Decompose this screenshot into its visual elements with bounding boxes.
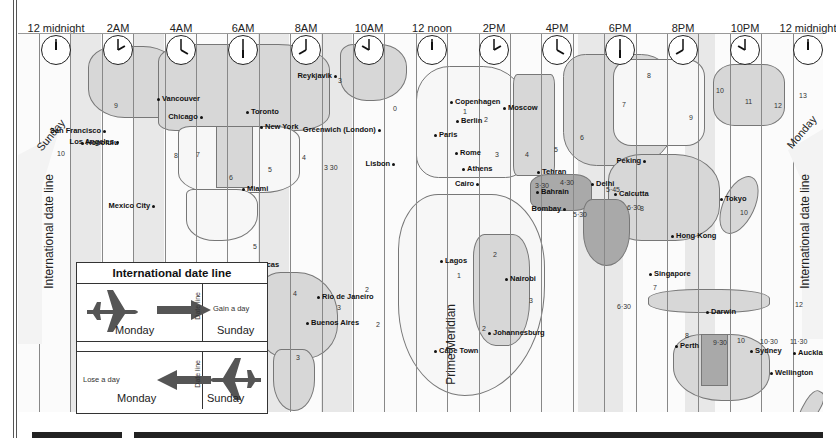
zone-offset-label: 4·30 (560, 179, 574, 186)
city-label: Buenos Aires (306, 318, 359, 327)
clock-icon (417, 35, 447, 65)
city-label: Delhi (591, 179, 614, 188)
zone-offset-label: 6·30 (617, 303, 631, 310)
zone-offset-label: 9 (114, 102, 118, 109)
zone-offset-label: 10·30 (760, 338, 778, 345)
zone-offset-label: 9·30 (713, 339, 727, 346)
city-label: Johannesburg (488, 328, 545, 337)
city-label: Moscow (503, 103, 538, 112)
city-label: Miami (242, 184, 268, 193)
zone-offset-label: 2 (484, 116, 488, 123)
city-label: Bahrain (536, 187, 569, 196)
zone-offset-label: 7 (622, 101, 626, 108)
prime-meridian-label: Prime Meridian (444, 304, 458, 385)
city-label: Copenhagen (450, 97, 500, 106)
zone-offset-label: 3 (338, 77, 342, 84)
city-label: Lagos (440, 256, 467, 265)
zone-offset-label: 11·30 (790, 338, 807, 345)
time-zone-boundary (667, 34, 668, 412)
city-label: Wellington (770, 368, 813, 377)
clock-icon (605, 35, 635, 65)
legend-lose-row: Lose a day Monday Sunday Date line (77, 352, 267, 409)
clock-icon (730, 35, 760, 65)
zone-offset-label: 6 (229, 174, 233, 181)
land-new-zealand (795, 387, 823, 412)
city-label: Nairobi (505, 274, 536, 283)
time-zone-boundary (353, 34, 354, 412)
city-label: Athens (462, 164, 492, 173)
zone-offset-label: 5·30 (573, 211, 587, 218)
time-zone-boundary (70, 34, 71, 412)
city-label: Tokyo (720, 194, 747, 203)
land-siberia (613, 59, 705, 146)
city-label: New York (260, 122, 299, 131)
clock-icon (41, 35, 71, 65)
time-zone-boundary (510, 34, 511, 412)
city-label: Rome (455, 148, 481, 157)
zone-offset-label: 4 (293, 290, 297, 297)
time-zone-boundary (322, 34, 323, 412)
lose-a-day-label: Lose a day (83, 375, 120, 384)
legend-monday: Monday (115, 324, 154, 336)
zone-offset-label: 6 (580, 134, 584, 141)
time-zone-boundary (384, 34, 385, 412)
zone-offset-label: 8 (647, 72, 651, 79)
zone-offset-label: 12 (774, 102, 782, 109)
city-label: Singapore (649, 269, 691, 278)
time-zone-boundary (636, 34, 637, 412)
zone-offset-label: 1 (463, 108, 467, 115)
time-zone-boundary (479, 34, 480, 412)
clock-icon (542, 35, 572, 65)
city-label: Greenwich (London) (303, 125, 381, 134)
city-label: Mexico City (109, 201, 156, 210)
zone-offset-label: 10 (716, 87, 724, 94)
legend-gain-row: Gain a day Monday Sunday Date line (77, 284, 267, 342)
city-label: Paris (434, 130, 457, 139)
land-russia-west (513, 74, 555, 176)
city-label: Lisbon (366, 159, 396, 168)
land-south-america (256, 272, 338, 359)
clock-icon (103, 35, 133, 65)
zone-offset-label: 2 (482, 325, 486, 332)
zone-offset-label: 3 (296, 354, 300, 361)
land-india (583, 199, 630, 266)
time-zone-boundary (416, 34, 417, 412)
city-label: Vancouver (157, 94, 200, 103)
date-line-legend: International date line Gain a day Monda… (76, 262, 268, 414)
city-label: Hong Kong (671, 231, 716, 240)
city-label: Reykjavik (297, 71, 337, 80)
time-zone-boundary (698, 34, 699, 412)
zone-offset-label: 9 (689, 114, 693, 121)
zone-offset-label: 3 (529, 297, 533, 304)
time-zone-boundary (290, 34, 291, 412)
zone-offset-label: 8 (174, 152, 178, 159)
zone-offset-label: 12 (795, 301, 803, 308)
arrow-left-icon (157, 370, 211, 390)
clock-icon (354, 35, 384, 65)
idl-label-left: International date line (42, 174, 56, 289)
zone-offset-label: 2 (376, 321, 380, 328)
bottom-bar-left (32, 432, 122, 438)
zone-offset-label: 3 (337, 304, 341, 311)
idl-label-right: International date line (798, 174, 812, 289)
time-zone-boundary (573, 34, 574, 412)
legend-sunday: Sunday (207, 392, 244, 404)
city-label: Toronto (246, 107, 279, 116)
clock-icon (166, 35, 196, 65)
date-line-text: Date line (194, 360, 201, 388)
bottom-bar-right (134, 432, 823, 438)
clock-icon (668, 35, 698, 65)
zone-offset-label: 10 (57, 150, 65, 157)
legend-monday: Monday (117, 392, 156, 404)
city-label: Honolulu (81, 138, 119, 147)
zone-offset-label: 8 (685, 332, 689, 339)
city-label: Tehran (537, 167, 566, 176)
land-siberia-east (713, 64, 785, 126)
city-label: Peking (617, 156, 647, 165)
land-usa-central (216, 126, 253, 188)
zone-offset-label: 8 (640, 205, 644, 212)
zone-offset-label: 3 (495, 151, 499, 158)
city-label: Berlin (456, 116, 482, 125)
city-label: Cape Town (434, 346, 478, 355)
zone-offset-label: 10 (740, 209, 748, 216)
